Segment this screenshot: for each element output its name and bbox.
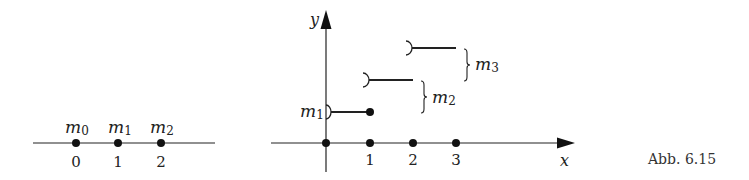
x-tick-1: 1	[365, 151, 375, 169]
x-tick-2: 2	[408, 151, 418, 169]
tick-label-1: 1	[113, 153, 123, 171]
origin-point	[322, 139, 330, 147]
open-end-bracket-icon	[363, 73, 369, 87]
x-axis-label: x	[560, 151, 569, 170]
figure-caption: Abb. 6.15	[647, 151, 716, 167]
step-3: m3	[406, 41, 499, 81]
left-number-line: m0 m1 m2 0 1 2	[33, 117, 215, 171]
step-2: m2	[363, 73, 456, 113]
point-1	[114, 139, 122, 147]
x-point-3	[452, 139, 460, 147]
tick-label-2: 2	[156, 153, 166, 171]
step-label-m3: m3	[475, 54, 499, 75]
point-2	[157, 139, 165, 147]
brace-icon	[421, 81, 427, 113]
tick-label-0: 0	[71, 153, 81, 171]
x-tick-3: 3	[451, 151, 461, 169]
closed-end-dot	[366, 108, 374, 116]
figure-canvas: m0 m1 m2 0 1 2 x y 1 2 3 m1	[0, 0, 749, 180]
x-point-1	[366, 139, 374, 147]
step-plot: x y 1 2 3 m1 m2 m	[271, 10, 575, 172]
y-axis-arrow-icon	[321, 10, 332, 29]
step-label-m2: m2	[432, 87, 456, 108]
mass-label-m0: m0	[65, 117, 89, 138]
open-end-bracket-icon	[326, 105, 331, 119]
x-axis-arrow-icon	[557, 138, 575, 149]
brace-icon	[464, 49, 470, 81]
step-1: m1	[300, 101, 374, 122]
x-point-2	[409, 139, 417, 147]
y-axis-label: y	[309, 10, 320, 29]
open-end-bracket-icon	[406, 41, 412, 55]
point-0	[72, 139, 80, 147]
mass-label-m2: m2	[150, 117, 174, 138]
mass-label-m1: m1	[108, 117, 132, 138]
step-label-m1: m1	[300, 101, 324, 122]
